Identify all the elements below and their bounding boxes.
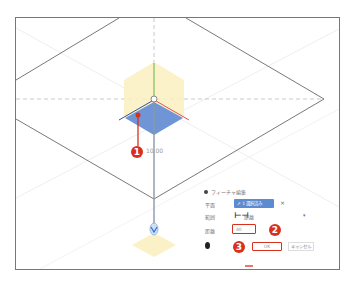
plane-outline-edge: [16, 18, 119, 80]
viewport-canvas[interactable]: [15, 17, 340, 270]
dialog-title-text: フィーチャ編集: [211, 188, 246, 195]
extent-label: 範囲: [205, 213, 215, 220]
dialog-title: フィーチャ編集: [204, 188, 246, 195]
dimension-label: 10.00: [146, 147, 163, 154]
distance-label: 距離: [205, 227, 215, 234]
plane-selection-chip[interactable]: ➚ 1 選択済み: [234, 199, 274, 208]
extent-dropdown[interactable]: 距離: [244, 213, 254, 220]
info-icon: [205, 242, 210, 249]
collapse-dot-icon[interactable]: [204, 190, 208, 194]
plane-selection-text: 1 選択済み: [242, 201, 262, 206]
3d-scene[interactable]: [16, 18, 340, 270]
callout-3: 3: [233, 241, 245, 253]
callout-2: 2: [269, 224, 281, 236]
ok-button[interactable]: OK: [252, 242, 282, 251]
arrow-handle-icon[interactable]: [150, 223, 158, 235]
origin-point[interactable]: [151, 96, 157, 102]
cancel-button[interactable]: キャンセル: [288, 242, 314, 251]
plane-label: 平面: [205, 201, 215, 208]
clear-selection-icon[interactable]: ×: [280, 199, 285, 206]
distance-input[interactable]: 40: [232, 224, 256, 234]
offset-plane-preview: [132, 233, 176, 257]
chevron-down-icon[interactable]: ▾: [303, 212, 306, 218]
callout-1: 1: [131, 146, 143, 158]
